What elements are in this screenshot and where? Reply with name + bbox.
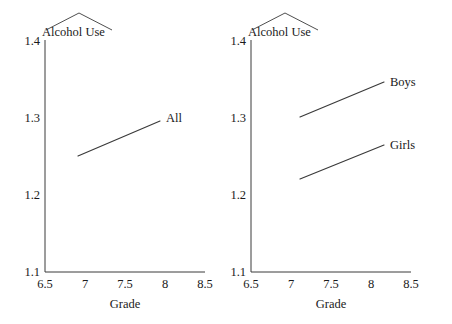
left-y-tick-1-2: 1.2 [24,188,40,202]
right-y-tick-1-4: 1.4 [230,34,246,48]
series-label-boys: Boys [390,75,416,89]
left-x-tick-8: 8 [162,277,168,291]
figure-alcohol-use-by-grade: Alcohol Use 1.4 1.3 1.2 1.1 6.5 7 7.5 8 … [0,0,452,324]
left-x-tick-7: 7 [82,277,88,291]
right-x-tick-7-5: 7.5 [323,277,339,291]
left-panel-title: Alcohol Use [42,25,105,39]
right-x-tick-8: 8 [368,277,374,291]
right-x-tick-8-5: 8.5 [403,277,419,291]
right-x-axis-title: Grade [316,297,347,311]
series-label-all: All [166,111,183,125]
left-y-tick-1-3: 1.3 [24,111,40,125]
left-x-tick-6-5: 6.5 [37,277,53,291]
left-panel-plot: Alcohol Use 1.4 1.3 1.2 1.1 6.5 7 7.5 8 … [0,0,226,324]
left-x-tick-7-5: 7.5 [117,277,133,291]
left-y-tick-1-4: 1.4 [24,34,40,48]
right-x-tick-6-5: 6.5 [243,277,259,291]
right-x-tick-7: 7 [288,277,294,291]
series-line-all [78,121,160,156]
panel-all: Alcohol Use 1.4 1.3 1.2 1.1 6.5 7 7.5 8 … [0,0,226,324]
series-line-girls [300,145,384,179]
right-panel-plot: Alcohol Use 1.4 1.3 1.2 1.1 6.5 7 7.5 8 … [226,0,452,324]
series-line-boys [300,82,384,117]
left-x-tick-8-5: 8.5 [197,277,213,291]
panel-boys-girls: Alcohol Use 1.4 1.3 1.2 1.1 6.5 7 7.5 8 … [226,0,452,324]
right-y-tick-1-2: 1.2 [230,188,246,202]
series-label-girls: Girls [390,138,415,152]
right-y-tick-1-3: 1.3 [230,111,246,125]
right-panel-title: Alcohol Use [248,25,311,39]
left-x-axis-title: Grade [110,297,141,311]
